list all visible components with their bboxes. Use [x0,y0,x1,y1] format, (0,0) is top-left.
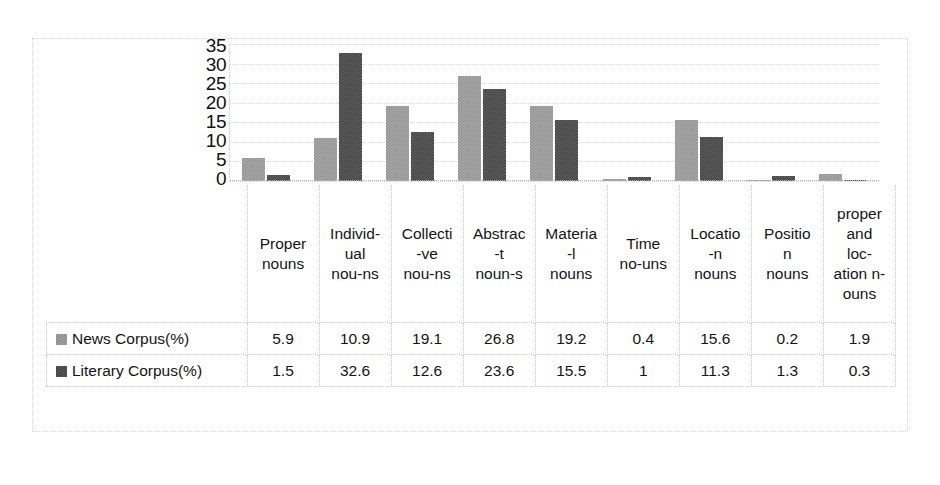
y-axis-tick-35: 35 [206,38,226,53]
gridline-0 [230,181,879,182]
bar-news[interactable] [458,76,481,181]
category-header-cell: Collecti-venou-ns [391,185,463,323]
bar-group [446,44,518,181]
bar-news[interactable] [314,138,337,181]
chart-frame: 35302520151050 PropernounsIndivid-ualnou… [32,38,908,432]
data-cell: 1.3 [751,355,823,387]
category-label-line: nouns [248,254,319,274]
y-axis-tick-30: 30 [206,57,226,72]
x-axis-baseline [230,180,879,181]
category-label-line: n [752,244,823,264]
category-label-line: Abstrac [464,224,535,244]
legend-entry-news[interactable]: News Corpus(%) [47,323,248,355]
table-corner-cell [47,185,248,323]
category-header-cell: Timeno-uns [607,185,679,323]
legend-entry-literary[interactable]: Literary Corpus(%) [47,355,248,387]
bar-series-container [230,44,879,181]
category-label-line: Individ- [320,224,391,244]
data-cell: 11.3 [679,355,751,387]
category-header-cell: Materia-lnouns [535,185,607,323]
data-cell: 5.9 [247,323,319,355]
bar-literary[interactable] [700,137,723,181]
plot-region: 35302520151050 [196,44,879,181]
data-cell: 32.6 [319,355,391,387]
data-cell: 19.2 [535,323,607,355]
category-label-line: nouns [680,264,751,284]
data-cell: 1.5 [247,355,319,387]
category-header-cell: Individ-ualnou-ns [319,185,391,323]
category-label-line: Locatio [680,224,751,244]
bar-literary[interactable] [555,120,578,181]
category-header-cell: Propernouns [247,185,319,323]
y-axis-tick-20: 20 [206,95,226,110]
bar-news[interactable] [242,158,265,181]
category-label-line: loc- [824,244,895,264]
table-header-row: PropernounsIndivid-ualnou-nsCollecti-ven… [47,185,896,323]
category-label-line: nouns [536,264,607,284]
data-cell: 10.9 [319,323,391,355]
category-label-line: -n [680,244,751,264]
category-label-line: -l [536,244,607,264]
bar-group [230,44,302,181]
category-label-line: Proper [248,234,319,254]
category-label-line: -ve [392,244,463,264]
bar-group [302,44,374,181]
category-label-line: Collecti [392,224,463,244]
bar-literary[interactable] [483,89,506,181]
category-label-line: -t [464,244,535,264]
data-table: PropernounsIndivid-ualnou-nsCollecti-ven… [46,185,896,387]
bar-group [518,44,590,181]
bar-literary[interactable] [411,132,434,181]
legend-label: News Corpus(%) [72,330,189,347]
bar-news[interactable] [386,106,409,181]
category-label-line: nou-ns [320,264,391,284]
bar-group [591,44,663,181]
category-label-line: and [824,224,895,244]
bar-literary[interactable] [339,53,362,181]
category-label-line: nou-ns [392,264,463,284]
category-header-cell: properandloc-ation n-ouns [823,185,895,323]
y-axis-tick-10: 10 [206,133,226,148]
data-cell: 15.5 [535,355,607,387]
bar-group [374,44,446,181]
y-axis-tick-0: 0 [216,171,226,186]
legend-label: Literary Corpus(%) [72,362,202,379]
category-label-line: no-uns [608,254,679,274]
y-axis-tick-15: 15 [206,114,226,129]
legend-swatch-icon [56,366,67,377]
data-cell: 26.8 [463,323,535,355]
legend-swatch-icon [56,334,67,345]
category-header-cell: Abstrac-tnoun-s [463,185,535,323]
category-label-line: noun-s [464,264,535,284]
bar-news[interactable] [675,120,698,181]
data-cell: 12.6 [391,355,463,387]
data-cell: 19.1 [391,323,463,355]
bar-group [663,44,735,181]
plot-area [229,44,879,181]
data-cell: 23.6 [463,355,535,387]
y-axis-tick-5: 5 [216,152,226,167]
category-label-line: nouns [752,264,823,284]
data-cell: 0.2 [751,323,823,355]
y-axis: 35302520151050 [192,38,226,186]
data-cell: 1.9 [823,323,895,355]
data-cell: 1 [607,355,679,387]
bar-news[interactable] [530,106,553,181]
table-row: Literary Corpus(%)1.532.612.623.615.5111… [47,355,896,387]
data-cell: 15.6 [679,323,751,355]
category-label-line: ation n- [824,264,895,284]
category-label-line: Positio [752,224,823,244]
category-label-line: proper [824,204,895,224]
data-cell: 0.4 [607,323,679,355]
data-cell: 0.3 [823,355,895,387]
category-header-cell: Locatio-nnouns [679,185,751,323]
y-axis-tick-25: 25 [206,76,226,91]
category-label-line: ouns [824,284,895,304]
bar-group [735,44,807,181]
table-row: News Corpus(%)5.910.919.126.819.20.415.6… [47,323,896,355]
category-label-line: ual [320,244,391,264]
category-label-line: Time [608,234,679,254]
bar-group [807,44,879,181]
category-header-cell: Positionnouns [751,185,823,323]
category-label-line: Materia [536,224,607,244]
